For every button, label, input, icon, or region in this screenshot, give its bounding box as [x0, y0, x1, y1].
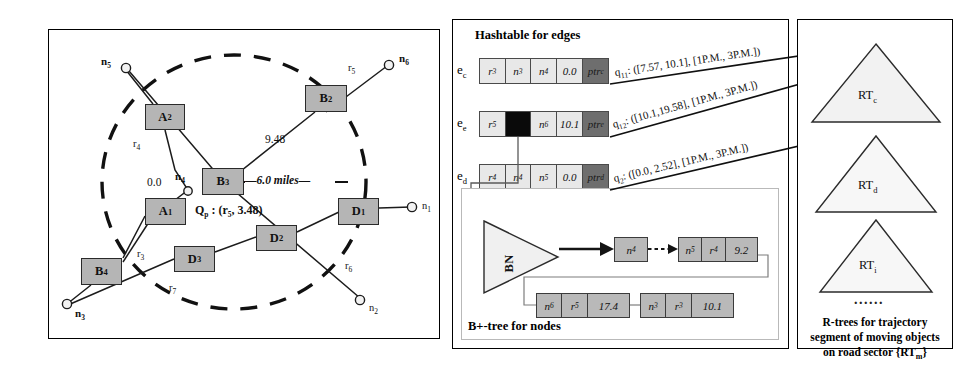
road-label-r4: r4 — [133, 138, 140, 152]
segment-label: D — [352, 204, 361, 219]
segment-label: D — [270, 231, 279, 246]
distance-label-948: 9.48 — [265, 133, 285, 145]
btree-root-label: BN — [502, 243, 517, 273]
bt-cell-node[interactable]: n6 — [537, 294, 562, 317]
road-label-r5: r5 — [348, 62, 355, 76]
node-circle-n6 — [384, 60, 393, 69]
offset-label-zero: 0.0 — [147, 176, 161, 188]
node-label-n4: n4 — [175, 170, 185, 185]
road-r3 — [123, 222, 149, 262]
btree-panel: BN n4 n5 r4 9.2 n6 — [461, 188, 779, 340]
bt-cell-node[interactable]: n3 — [641, 294, 666, 317]
rtree-label-RTc: RTc — [858, 88, 877, 105]
road-network-graphics — [49, 30, 439, 338]
btree-leaf-node[interactable]: n3 r3 10.1 — [640, 293, 734, 318]
rtree-ellipsis: ...... — [854, 292, 884, 308]
btree-leaf-node[interactable]: n5 r4 9.2 — [678, 237, 758, 262]
node-label-n5: n5 — [101, 55, 111, 70]
bt-cell-road[interactable]: r4 — [702, 238, 725, 261]
segment-box-D3[interactable]: D3 — [174, 246, 215, 272]
caption-line-3: on road sector {RTm} — [800, 345, 950, 364]
segment-label: A — [158, 110, 167, 125]
rtree-triangle-RTi — [820, 220, 932, 292]
caption-line-1: R-trees for trajectory — [800, 315, 950, 330]
road-network-panel: A2 B2 B3 A1 D1 D2 D3 B4 n5 n6 n4 — [48, 29, 440, 339]
bt-cell-road[interactable]: r3 — [666, 294, 691, 317]
segment-label: B — [320, 91, 329, 106]
segment-box-A1[interactable]: A1 — [145, 198, 186, 225]
rtree-label-RTd: RTd — [858, 178, 877, 195]
rtree-panel: RTc RTd RTi ...... R-trees for trajector… — [797, 19, 953, 349]
query-point-label: Qp : (r5, 3.48) — [195, 203, 263, 219]
segment-box-B2[interactable]: B2 — [305, 85, 347, 112]
rtree-caption: R-trees for trajectory segment of moving… — [800, 315, 950, 364]
bt-cell-node[interactable]: n4 — [615, 238, 647, 261]
node-circle-n2 — [355, 295, 364, 304]
road-label-r3: r3 — [137, 248, 144, 262]
segment-box-B4[interactable]: B4 — [81, 258, 122, 285]
segment-label: B — [217, 174, 226, 189]
btree-title: B+-tree for nodes — [468, 319, 561, 334]
node-circle-n3 — [62, 299, 71, 308]
segment-box-D1[interactable]: D1 — [338, 198, 379, 225]
btree-dotted-arrowhead — [668, 244, 678, 254]
road-label-r6: r6 — [345, 260, 352, 274]
figure-root: A2 B2 B3 A1 D1 D2 D3 B4 n5 n6 n4 — [0, 0, 977, 368]
bt-cell-value[interactable]: 9.2 — [726, 238, 757, 261]
bt-cell-node[interactable]: n5 — [679, 238, 702, 261]
btree-root-triangle — [484, 221, 558, 293]
radius-label: —6.0 miles— — [245, 174, 310, 186]
node-circle-n1 — [407, 202, 416, 211]
bt-cell-value[interactable]: 17.4 — [588, 294, 629, 317]
rtree-triangle-RTc — [812, 44, 940, 122]
segment-box-D2[interactable]: D2 — [256, 225, 297, 251]
node-label-n3: n3 — [75, 307, 85, 322]
rtree-triangle-RTd — [816, 136, 936, 212]
segment-label: D — [188, 252, 197, 267]
segment-box-B3[interactable]: B3 — [202, 168, 244, 195]
node-label-n2: n2 — [369, 302, 378, 316]
road-n6-b2 — [227, 66, 387, 182]
btree-leaf-node[interactable]: n6 r5 17.4 — [536, 293, 630, 318]
node-circle-n4 — [184, 187, 192, 195]
btree-root-arrowhead — [600, 242, 614, 256]
bt-cell-road[interactable]: r5 — [562, 294, 587, 317]
bt-cell-value[interactable]: 10.1 — [692, 294, 733, 317]
btree-head-node[interactable]: n4 — [614, 237, 648, 262]
segment-box-A2[interactable]: A2 — [145, 104, 185, 130]
rtree-label-RTi: RTi — [859, 258, 877, 275]
caption-line-2: segment of moving objects — [800, 330, 950, 345]
node-label-n1: n1 — [422, 200, 431, 214]
node-label-n6: n6 — [399, 52, 409, 67]
road-label-r7: r7 — [169, 282, 176, 296]
segment-label: A — [159, 204, 168, 219]
segment-label: B — [95, 264, 104, 279]
node-circle-n5 — [121, 63, 130, 72]
